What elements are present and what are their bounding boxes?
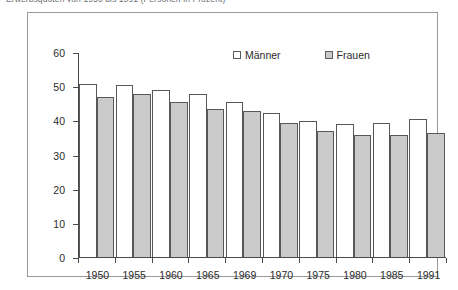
x-tick-4	[225, 258, 226, 263]
caption-text: Erwerbsquoten von 1950 bis 1991 (Persone…	[6, 0, 306, 3]
bar-männer-1985	[373, 123, 391, 257]
figure-frame: Männer Frauen 6050403020100 195019551960…	[27, 12, 438, 277]
bar-frauen-1950	[97, 97, 115, 257]
x-tick-1	[115, 258, 116, 263]
bar-group-1955	[116, 53, 153, 257]
bar-männer-1970	[263, 113, 281, 258]
bar-frauen-1970	[280, 123, 298, 257]
x-tick-0	[78, 258, 79, 263]
x-axis-labels: 1950195519601965196919701975198019851991	[79, 269, 447, 281]
x-label-1955: 1955	[116, 269, 153, 281]
x-label-1985: 1985	[373, 269, 410, 281]
y-tick-label-0: 0	[59, 252, 65, 264]
x-label-1965: 1965	[189, 269, 226, 281]
bar-männer-1991	[409, 119, 427, 257]
bar-group-1975	[299, 53, 336, 257]
bar-group-1991	[409, 53, 446, 257]
bar-männer-1955	[116, 85, 134, 257]
x-label-1970: 1970	[263, 269, 300, 281]
bar-frauen-1980	[354, 135, 372, 257]
cut-off-caption: Erwerbsquoten von 1950 bis 1991 (Persone…	[6, 0, 306, 7]
bar-group-1950	[79, 53, 116, 257]
y-tick-50: 50	[73, 87, 78, 88]
x-tick-5	[262, 258, 263, 263]
x-label-1960: 1960	[153, 269, 190, 281]
x-tick-6	[299, 258, 300, 263]
bar-group-1985	[373, 53, 410, 257]
chart-screenshot: Erwerbsquoten von 1950 bis 1991 (Persone…	[0, 0, 458, 290]
bar-frauen-1960	[170, 102, 188, 257]
x-label-1975: 1975	[300, 269, 337, 281]
y-tick-20: 20	[73, 190, 78, 191]
x-label-1969: 1969	[226, 269, 263, 281]
y-tick-60: 60	[73, 53, 78, 54]
bar-männer-1960	[152, 90, 170, 257]
y-tick-10: 10	[73, 224, 78, 225]
y-tick-label-20: 20	[53, 184, 65, 196]
bar-männer-1969	[226, 102, 244, 257]
x-tick-9	[409, 258, 410, 263]
y-tick-30: 30	[73, 156, 78, 157]
bar-group-1970	[263, 53, 300, 257]
y-tick-40: 40	[73, 121, 78, 122]
bar-group-1965	[189, 53, 226, 257]
bar-frauen-1985	[390, 135, 408, 257]
bar-männer-1980	[336, 124, 354, 257]
x-label-1980: 1980	[337, 269, 374, 281]
bar-frauen-1965	[207, 109, 225, 257]
bar-männer-1965	[189, 94, 207, 257]
bar-männer-1975	[299, 121, 317, 257]
bar-männer-1950	[79, 84, 97, 257]
bar-groups	[79, 53, 446, 257]
bar-group-1969	[226, 53, 263, 257]
bar-frauen-1991	[427, 133, 445, 257]
bar-frauen-1969	[243, 111, 261, 257]
x-tick-10	[446, 258, 447, 263]
bar-group-1960	[152, 53, 189, 257]
y-tick-label-60: 60	[53, 47, 65, 59]
y-tick-label-30: 30	[53, 150, 65, 162]
bar-frauen-1955	[133, 94, 151, 257]
y-tick-label-40: 40	[53, 115, 65, 127]
x-label-1991: 1991	[410, 269, 447, 281]
x-tick-8	[372, 258, 373, 263]
y-tick-label-10: 10	[53, 218, 65, 230]
x-tick-2	[152, 258, 153, 263]
bar-group-1980	[336, 53, 373, 257]
plot-area: 6050403020100	[78, 53, 446, 258]
bar-frauen-1975	[317, 131, 335, 257]
x-label-1950: 1950	[79, 269, 116, 281]
y-tick-label-50: 50	[53, 81, 65, 93]
x-tick-3	[188, 258, 189, 263]
x-tick-7	[336, 258, 337, 263]
